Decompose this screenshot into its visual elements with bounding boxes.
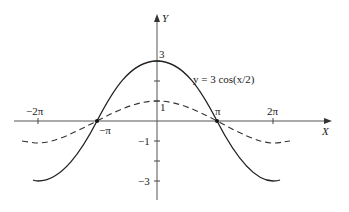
y-tick-label-3: 3 <box>159 48 165 60</box>
x-tick-label-neg2pi: −2π <box>26 105 44 117</box>
y-axis-label: Y <box>162 12 170 24</box>
x-tick-label-pi: π <box>215 105 221 117</box>
cosine-graph: Y X 3 1 −1 −3 −2π −π π 2π y = 3 cos(x/2) <box>0 0 349 212</box>
x-tick-label-negpi: −π <box>99 124 111 136</box>
intersection-point-neg-pi <box>95 119 99 123</box>
y-tick-label-1: 1 <box>160 101 166 113</box>
intersection-point-pi <box>215 119 219 123</box>
dashed-curve-cos <box>22 101 290 143</box>
x-tick-label-2pi: 2π <box>267 105 279 117</box>
y-tick-label-neg1: −1 <box>138 135 150 147</box>
x-axis-arrow-icon <box>324 118 332 124</box>
curve-annotation: y = 3 cos(x/2) <box>193 73 255 86</box>
x-axis-label: X <box>321 125 330 137</box>
y-axis-arrow-icon <box>154 14 160 22</box>
y-tick-label-neg3: −3 <box>138 175 150 187</box>
